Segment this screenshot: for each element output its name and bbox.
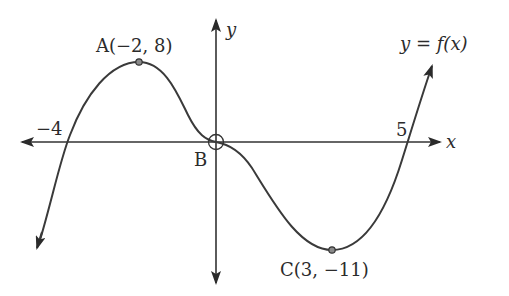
curve-arrow-left: [37, 232, 42, 248]
point-a-marker: [136, 59, 142, 65]
y-axis-label: y: [225, 19, 237, 40]
point-c-label: C(3, −11): [280, 259, 369, 280]
curve-equation-label: y = f(x): [399, 33, 468, 54]
point-b-label: B: [194, 149, 207, 170]
x-intercept-left-label: −4: [36, 118, 63, 139]
function-graph: A(−2, 8) B C(3, −11) −4 5 x y y = f(x): [0, 0, 509, 296]
x-intercept-right-label: 5: [396, 119, 407, 140]
point-a-label: A(−2, 8): [95, 35, 172, 56]
function-curve: [40, 62, 432, 250]
point-c-marker: [329, 247, 335, 253]
x-axis-label: x: [446, 131, 456, 152]
